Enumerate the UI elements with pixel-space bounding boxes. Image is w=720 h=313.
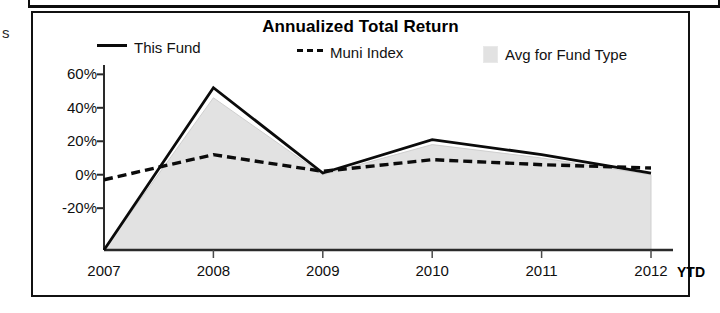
x-tick-label: 2008	[173, 262, 253, 279]
annualized-total-return-chart: Annualized Total Return This Fund Muni I…	[31, 11, 690, 297]
x-tick-label: 2009	[283, 262, 363, 279]
area-avg-for-fund-type	[104, 98, 651, 250]
y-tick-label: 40%	[35, 99, 97, 116]
y-tick-label: -20%	[35, 199, 97, 216]
plot-svg	[33, 13, 688, 295]
x-tick-label: 2007	[64, 262, 144, 279]
x-tick-label: 2011	[502, 262, 582, 279]
ytd-annotation: YTD	[677, 264, 705, 280]
y-tick-label: 0%	[35, 166, 97, 183]
y-tick-label: 20%	[35, 132, 97, 149]
plot-area: 60%40%20%0%-20%200720082009201020112012Y…	[33, 13, 688, 295]
scan-edge-fragment: s	[2, 24, 10, 41]
x-tick-label: 2010	[392, 262, 472, 279]
panel-divider-rule	[28, 0, 720, 8]
y-tick-label: 60%	[35, 65, 97, 82]
